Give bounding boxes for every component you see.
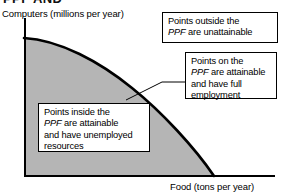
callout-on-line3: and have full (191, 79, 272, 90)
ppf-abbr: PPF (191, 67, 209, 77)
callout-on-line2-rest: are attainable (209, 67, 266, 77)
callout-inside-line3: and have unemployed (44, 130, 145, 141)
x-axis-label: Food (tons per year) (170, 181, 254, 192)
callout-inside-line4: resources (44, 141, 145, 152)
callout-inside-line1: Points inside the (44, 107, 145, 118)
callout-outside-line1: Points outside the (168, 16, 273, 27)
y-axis-label: Computers (millions per year) (2, 8, 124, 19)
callout-on-line2: PPF are attainable (191, 67, 272, 78)
callout-inside-line2: PPF are attainable (44, 118, 145, 129)
callout-outside-line2: PPF are unattainable (168, 27, 273, 38)
callout-on-line1: Points on the (191, 56, 272, 67)
callout-points-outside: Points outside the PPF are unattainable (162, 12, 278, 43)
callout-on-line4: employment (191, 90, 272, 101)
ppf-abbr: PPF (168, 27, 186, 37)
callout-outside-line2-rest: are unattainable (186, 27, 253, 37)
ppf-diagram: PPF AND Computers (millions per year) Fo… (0, 0, 282, 195)
callout-inside-line2-rest: are attainable (62, 118, 119, 128)
callout-points-on-curve: Points on the PPF are attainable and hav… (185, 52, 277, 99)
ppf-abbr: PPF (44, 118, 62, 128)
callout-points-inside: Points inside the PPF are attainable and… (38, 103, 150, 152)
